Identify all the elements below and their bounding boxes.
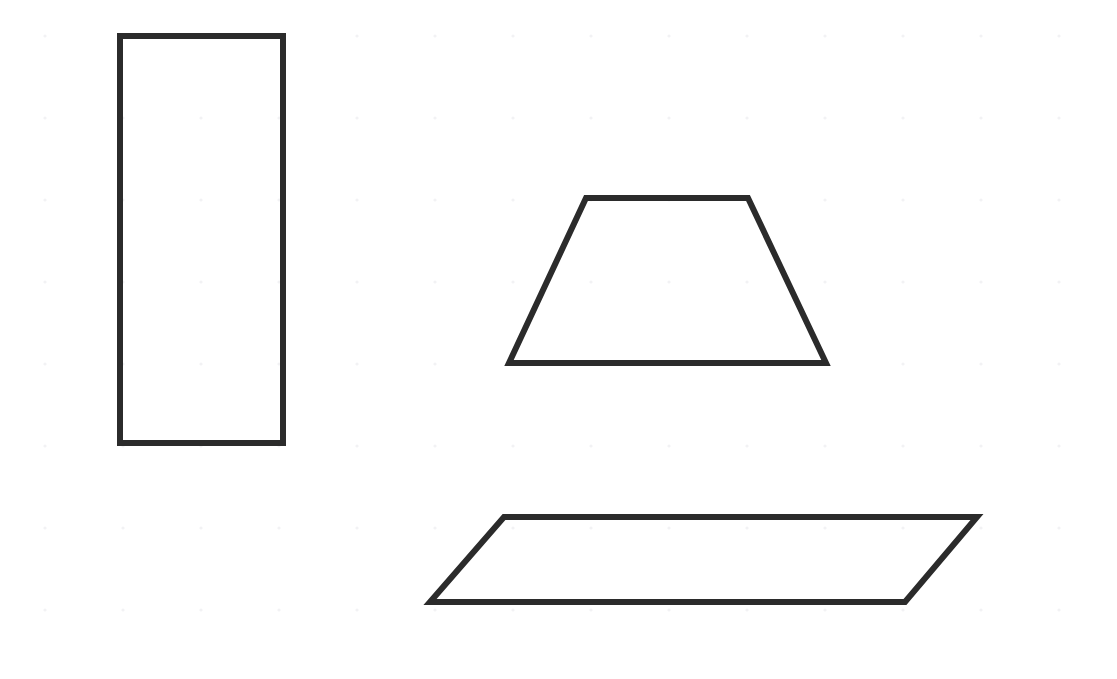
shape-rectangle[interactable] (120, 36, 283, 443)
diagram-canvas (0, 0, 1117, 679)
shape-trapezoid[interactable] (509, 198, 826, 363)
shape-layer (0, 0, 1117, 679)
shape-parallelogram[interactable] (430, 517, 977, 602)
